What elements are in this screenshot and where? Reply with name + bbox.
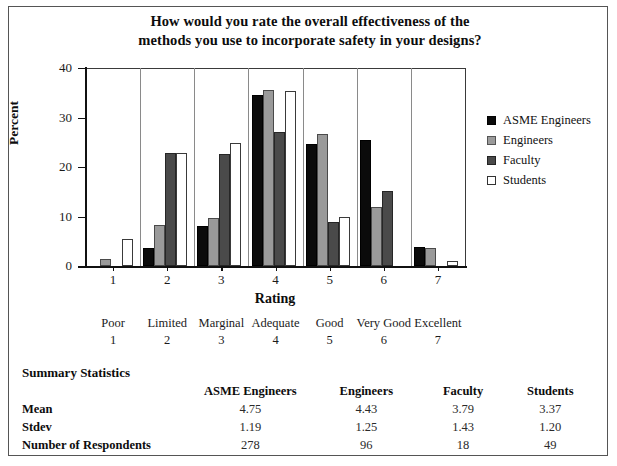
bar-students-rating-2 xyxy=(176,153,187,266)
cell-stdev-students: 1.20 xyxy=(507,418,594,436)
cell-mean-engineers: 4.43 xyxy=(313,400,420,418)
row-header-number-of-respondents: Number of Respondents xyxy=(22,436,188,454)
summary-statistics-table: ASME Engineers Engineers Faculty Student… xyxy=(22,382,594,454)
table-header-row: ASME Engineers Engineers Faculty Student… xyxy=(22,382,594,400)
x-tick-label-4: 4 xyxy=(256,272,296,288)
legend-label: Students xyxy=(503,173,546,188)
summary-statistics-heading: Summary Statistics xyxy=(22,365,130,381)
column-header-faculty: Faculty xyxy=(420,382,507,400)
x-tick-mark-7 xyxy=(438,266,439,271)
table-corner-blank xyxy=(22,382,188,400)
bar-students-rating-1 xyxy=(122,239,133,266)
cell-mean-faculty: 3.79 xyxy=(420,400,507,418)
column-header-asme-engineers: ASME Engineers xyxy=(188,382,313,400)
cell-stdev-asme-engineers: 1.19 xyxy=(188,418,313,436)
bar-engineers-rating-5 xyxy=(317,134,328,266)
rating-scale-descriptors: Poor1Limited2Marginal3Adequate4Good5Very… xyxy=(8,315,608,353)
x-tick-mark-5 xyxy=(330,266,331,271)
legend-item-asme-engineers[interactable]: ASME Engineers xyxy=(487,112,591,129)
x-tick-label-2: 2 xyxy=(147,272,187,288)
bar-group-rating-6 xyxy=(360,68,404,266)
bar-engineers-rating-6 xyxy=(371,207,382,266)
bar-faculty-rating-5 xyxy=(328,222,339,266)
legend-label: Faculty xyxy=(503,153,541,168)
bar-faculty-rating-6 xyxy=(382,191,393,266)
bar-faculty-rating-3 xyxy=(219,154,230,266)
bar-group-rating-4 xyxy=(252,68,296,266)
bar-asme-engineers-rating-3 xyxy=(197,226,208,266)
scale-descriptor-number: 7 xyxy=(393,332,483,349)
bar-engineers-rating-4 xyxy=(263,90,274,266)
figure-root: How would you rate the overall effective… xyxy=(0,0,617,466)
legend-item-engineers[interactable]: Engineers xyxy=(487,132,591,149)
cell-mean-students: 3.37 xyxy=(507,400,594,418)
x-tick-label-6: 6 xyxy=(364,272,404,288)
legend-swatch-icon-engineers xyxy=(487,136,496,145)
y-tick-label-30: 30 xyxy=(44,110,72,126)
cell-number-of-respondents-asme-engineers: 278 xyxy=(188,436,313,454)
y-tick-mark-40 xyxy=(78,68,85,69)
bar-students-rating-5 xyxy=(339,217,350,267)
bar-engineers-rating-7 xyxy=(425,248,436,266)
bar-students-rating-3 xyxy=(230,143,241,266)
x-tick-label-1: 1 xyxy=(93,272,133,288)
y-tick-label-0: 0 xyxy=(44,258,72,274)
legend-item-faculty[interactable]: Faculty xyxy=(487,152,591,169)
bars-layer xyxy=(86,68,465,266)
column-header-engineers: Engineers xyxy=(313,382,420,400)
bar-group-rating-2 xyxy=(143,68,187,266)
x-tick-label-5: 5 xyxy=(310,272,350,288)
bar-group-rating-3 xyxy=(197,68,241,266)
cell-number-of-respondents-engineers: 96 xyxy=(313,436,420,454)
y-tick-label-20: 20 xyxy=(44,159,72,175)
bar-engineers-rating-1 xyxy=(100,259,111,266)
x-tick-mark-3 xyxy=(221,266,222,271)
y-axis-title: Percent xyxy=(6,101,22,145)
column-header-students: Students xyxy=(507,382,594,400)
bar-asme-engineers-rating-4 xyxy=(252,95,263,266)
bar-asme-engineers-rating-7 xyxy=(414,247,425,266)
scale-descriptor-label: Excellent xyxy=(414,316,461,330)
x-tick-mark-1 xyxy=(113,266,114,271)
scale-descriptor-7: Excellent7 xyxy=(393,315,483,349)
bar-asme-engineers-rating-2 xyxy=(143,248,154,266)
x-tick-label-7: 7 xyxy=(418,272,458,288)
x-axis-title: Rating xyxy=(85,291,465,307)
row-header-mean: Mean xyxy=(22,400,188,418)
bar-group-rating-5 xyxy=(306,68,350,266)
cell-stdev-engineers: 1.25 xyxy=(313,418,420,436)
legend-item-students[interactable]: Students xyxy=(487,172,591,189)
cell-mean-asme-engineers: 4.75 xyxy=(188,400,313,418)
legend-label: ASME Engineers xyxy=(503,113,591,128)
y-tick-label-40: 40 xyxy=(44,60,72,76)
row-header-stdev: Stdev xyxy=(22,418,188,436)
bar-faculty-rating-2 xyxy=(165,153,176,266)
x-tick-label-3: 3 xyxy=(201,272,241,288)
x-tick-mark-4 xyxy=(276,266,277,271)
bar-engineers-rating-3 xyxy=(208,218,219,266)
cell-number-of-respondents-students: 49 xyxy=(507,436,594,454)
cell-stdev-faculty: 1.43 xyxy=(420,418,507,436)
cell-number-of-respondents-faculty: 18 xyxy=(420,436,507,454)
y-tick-mark-10 xyxy=(78,217,85,218)
bar-group-rating-1 xyxy=(89,68,133,266)
chart-legend: ASME EngineersEngineersFacultyStudents xyxy=(487,112,591,192)
bar-faculty-rating-4 xyxy=(274,132,285,266)
bar-group-rating-7 xyxy=(414,68,458,266)
legend-swatch-icon-faculty xyxy=(487,156,496,165)
legend-swatch-icon-students xyxy=(487,176,496,185)
y-tick-mark-20 xyxy=(78,167,85,168)
x-tick-mark-6 xyxy=(384,266,385,271)
bar-students-rating-4 xyxy=(285,91,296,266)
table-row: Number of Respondents278961849 xyxy=(22,436,594,454)
legend-swatch-icon-asme-engineers xyxy=(487,116,496,125)
x-tick-mark-2 xyxy=(167,266,168,271)
table-row: Stdev1.191.251.431.20 xyxy=(22,418,594,436)
bar-asme-engineers-rating-5 xyxy=(306,144,317,266)
x-axis-line xyxy=(78,266,467,268)
bar-asme-engineers-rating-6 xyxy=(360,140,371,266)
bar-engineers-rating-2 xyxy=(154,225,165,266)
table-row: Mean4.754.433.793.37 xyxy=(22,400,594,418)
plot-region: Percent 010203040 1234567 Rating ASME En… xyxy=(0,0,617,300)
legend-label: Engineers xyxy=(503,133,553,148)
